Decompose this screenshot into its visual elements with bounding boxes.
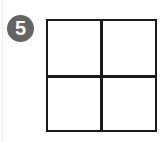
step-number-badge: 5 (7, 15, 34, 42)
left-divider (2, 0, 3, 142)
grid-horizontal-divider (48, 75, 155, 78)
two-by-two-grid (46, 19, 157, 132)
